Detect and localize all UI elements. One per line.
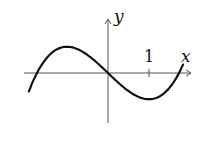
cubic-function-plot: y x 1 [0, 0, 204, 144]
x-axis-label: x [181, 46, 191, 66]
y-axis-label: y [113, 6, 124, 26]
x-tick-label-1: 1 [144, 47, 154, 66]
